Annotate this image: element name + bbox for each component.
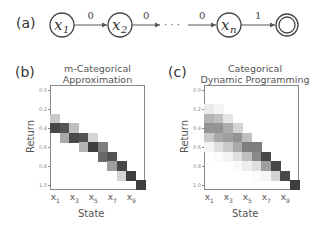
heatmap-cell xyxy=(223,142,233,152)
svg-text:1: 1 xyxy=(255,10,261,21)
heatmap-cell xyxy=(233,152,243,162)
heatmap-cell xyxy=(88,133,98,143)
heatmap-cell xyxy=(204,133,214,143)
y-tick-mark xyxy=(202,147,204,148)
heatmap-cell xyxy=(214,142,224,152)
svg-text:x: x xyxy=(221,16,230,34)
x-tick-label: x3 xyxy=(224,192,233,204)
heatmap-cell xyxy=(79,133,89,143)
y-tick-mark xyxy=(202,166,204,167)
x-tick-label: x5 xyxy=(243,192,252,204)
panel-b-xlabel: State xyxy=(78,208,104,219)
y-tick-label: 0.4 xyxy=(185,125,201,131)
panel-c-xlabel: State xyxy=(232,208,258,219)
y-tick-label: 0.6 xyxy=(31,144,47,150)
heatmap-cell xyxy=(79,142,89,152)
panel-b-title-line2: Approximation xyxy=(55,74,140,85)
x-tick-label: x9 xyxy=(127,192,136,204)
y-tick-mark xyxy=(202,185,204,186)
panel-b-ylabel: Return xyxy=(25,117,36,157)
heatmap-cell xyxy=(252,142,262,152)
heatmap-cell xyxy=(252,152,262,162)
y-tick-label: 0.0 xyxy=(31,87,47,93)
y-tick-mark xyxy=(48,147,50,148)
heatmap-cell xyxy=(204,142,214,152)
x-tick-label: x7 xyxy=(262,192,271,204)
panel-b-title-line1: m-Categorical xyxy=(55,63,140,74)
heatmap-cell xyxy=(214,152,224,162)
svg-text:0: 0 xyxy=(88,10,94,21)
heatmap-cell xyxy=(242,133,252,143)
heatmap-cell xyxy=(214,123,224,133)
panel-b-title: m-Categorical Approximation xyxy=(55,63,140,85)
svg-text:x: x xyxy=(112,16,121,34)
heatmap-cell xyxy=(242,161,252,171)
panel-b-label: (b) xyxy=(15,64,35,80)
panel-c-ylabel: Return xyxy=(179,117,190,157)
heatmap-cell xyxy=(242,142,252,152)
x-tick-label: x1 xyxy=(205,192,214,204)
svg-text:x: x xyxy=(54,16,63,34)
heatmap-cell xyxy=(60,133,70,143)
heatmap-cell xyxy=(261,171,271,181)
y-tick-mark xyxy=(48,90,50,91)
heatmap-cell xyxy=(290,180,300,190)
panel-c-title: Categorical Dynamic Programming xyxy=(190,63,318,85)
heatmap-cell xyxy=(223,114,233,124)
heatmap-cell xyxy=(242,152,252,162)
svg-text:1: 1 xyxy=(63,24,69,35)
heatmap-cell xyxy=(233,133,243,143)
heatmap-cell xyxy=(280,171,290,181)
y-tick-label: 0.6 xyxy=(185,144,201,150)
heatmap-cell xyxy=(252,161,262,171)
y-tick-mark xyxy=(48,128,50,129)
x-tick-label: x3 xyxy=(70,192,79,204)
x-tick-label: x1 xyxy=(51,192,60,204)
y-tick-label: 0.4 xyxy=(31,125,47,131)
heatmap-cell xyxy=(50,123,60,133)
heatmap-cell xyxy=(88,142,98,152)
heatmap-cell xyxy=(107,161,117,171)
heatmap-cell xyxy=(214,133,224,143)
y-tick-label: 1.0 xyxy=(185,182,201,188)
heatmap-cell xyxy=(50,114,60,124)
heatmap-cell xyxy=(223,133,233,143)
svg-text:0: 0 xyxy=(143,10,149,21)
y-tick-label: 0.2 xyxy=(185,106,201,112)
y-tick-mark xyxy=(48,185,50,186)
svg-text:2: 2 xyxy=(120,24,127,35)
ellipsis: · · · xyxy=(164,19,180,30)
heatmap-cell xyxy=(261,152,271,162)
y-tick-label: 0.0 xyxy=(185,87,201,93)
heatmap-cell xyxy=(233,142,243,152)
y-tick-mark xyxy=(202,90,204,91)
heatmap-cell xyxy=(117,171,127,181)
heatmap-cell xyxy=(69,133,79,143)
heatmap-cell xyxy=(223,152,233,162)
heatmap-cell xyxy=(271,161,281,171)
heatmap-cell xyxy=(107,152,117,162)
heatmap-cell xyxy=(117,161,127,171)
heatmap-cell xyxy=(136,180,146,190)
y-tick-label: 0.8 xyxy=(185,163,201,169)
y-tick-label: 1.0 xyxy=(31,182,47,188)
y-tick-mark xyxy=(202,109,204,110)
y-tick-mark xyxy=(202,128,204,129)
heatmap-cell xyxy=(60,123,70,133)
heatmap-cell xyxy=(223,123,233,133)
heatmap-cell xyxy=(98,142,108,152)
x-tick-label: x7 xyxy=(108,192,117,204)
y-tick-mark xyxy=(48,109,50,110)
panel-c-title-line1: Categorical xyxy=(190,63,318,74)
svg-text:0: 0 xyxy=(199,10,205,21)
heatmap-cell xyxy=(214,104,224,114)
y-tick-label: 0.2 xyxy=(31,106,47,112)
x-tick-label: x9 xyxy=(281,192,290,204)
panel-c-title-line2: Dynamic Programming xyxy=(190,74,318,85)
heatmap-cell xyxy=(69,123,79,133)
svg-text:n: n xyxy=(230,24,236,35)
heatmap-cell xyxy=(252,171,262,181)
y-tick-mark xyxy=(48,166,50,167)
heatmap-cell xyxy=(126,171,136,181)
heatmap-cell xyxy=(98,152,108,162)
